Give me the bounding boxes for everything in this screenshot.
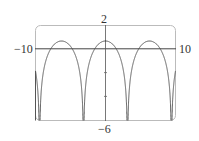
plot-svg [0, 0, 199, 141]
x-min-label: −10 [14, 43, 33, 55]
y-min-label: −6 [98, 123, 111, 135]
y-max-label: 2 [101, 13, 107, 25]
x-max-label: 10 [179, 43, 191, 55]
